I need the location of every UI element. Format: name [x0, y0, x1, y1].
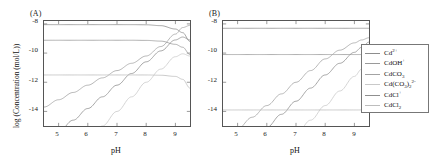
- series-line: [44, 25, 190, 107]
- legend-item: Cd2+: [365, 48, 424, 59]
- legend-color-swatch: [365, 53, 380, 54]
- plot-lines-panel-b: [223, 21, 369, 126]
- x-tick-label: 9: [168, 130, 182, 138]
- series-line: [44, 25, 190, 42]
- series-line: [44, 40, 190, 54]
- series-line: [44, 75, 190, 88]
- series-line: [95, 54, 190, 126]
- legend-item-label: CdOH+: [384, 60, 405, 67]
- x-tick-label: 5: [229, 130, 243, 138]
- figure-container: (A) (B) log (Concentration (mol/L)) -8 -…: [0, 0, 432, 167]
- x-tick-label: 9: [347, 130, 361, 138]
- plot-lines-panel-a: [44, 21, 190, 126]
- legend-color-swatch: [365, 84, 380, 85]
- legend-item-label: CdCl+: [384, 92, 402, 99]
- x-axis-title: pH: [96, 146, 136, 155]
- legend-color-swatch: [365, 95, 380, 96]
- legend-item: CdOH+: [365, 59, 424, 70]
- x-tick-label: 7: [288, 130, 302, 138]
- legend-item-label: CdCO3: [384, 71, 404, 78]
- x-tick-label: 7: [109, 130, 123, 138]
- x-tick-label: 8: [317, 130, 331, 138]
- y-tick-label: -12: [201, 76, 217, 84]
- series-line: [54, 37, 190, 126]
- plot-area-panel-a: [43, 20, 191, 127]
- legend-item-label: Cd(CO3)22-: [384, 81, 416, 88]
- y-tick-label: -14: [22, 105, 38, 113]
- legend: Cd2+CdOH+CdCO3Cd(CO3)22-CdCl+CdCl2: [361, 44, 429, 113]
- x-tick-label: 6: [258, 130, 272, 138]
- y-tick-label: -8: [201, 17, 217, 25]
- y-tick-label: -10: [22, 46, 38, 54]
- legend-item: CdCl2: [365, 101, 424, 112]
- legend-item-label: CdCl2: [384, 102, 401, 109]
- legend-item-label: Cd2+: [384, 50, 398, 57]
- x-axis-title: pH: [275, 146, 315, 155]
- y-tick-label: -8: [22, 17, 38, 25]
- legend-color-swatch: [365, 63, 380, 64]
- x-tick-label: 8: [138, 130, 152, 138]
- x-tick-label: 6: [79, 130, 93, 138]
- series-line: [296, 62, 369, 126]
- legend-item: Cd(CO3)22-: [365, 80, 424, 91]
- legend-color-swatch: [365, 105, 380, 106]
- y-tick-label: -14: [201, 105, 217, 113]
- y-tick-label: -12: [22, 76, 38, 84]
- legend-item: CdCO3: [365, 69, 424, 80]
- x-tick-label: 5: [50, 130, 64, 138]
- y-tick-label: -10: [201, 46, 217, 54]
- y-axis-title: log (Concentration (mol/L)): [12, 44, 21, 128]
- legend-item: CdCl+: [365, 90, 424, 101]
- plot-area-panel-b: [222, 20, 370, 127]
- legend-color-swatch: [365, 74, 380, 75]
